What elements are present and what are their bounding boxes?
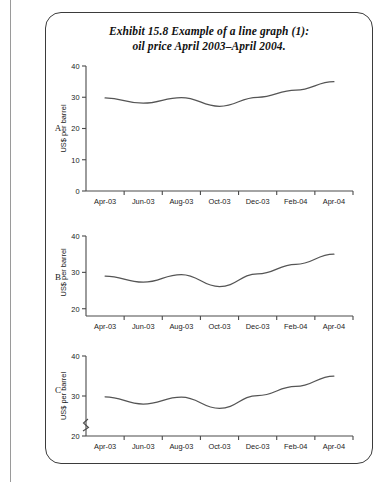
svg-text:Oct-03: Oct-03 [208, 442, 230, 451]
svg-text:Feb-04: Feb-04 [284, 442, 307, 451]
svg-text:Aug-03: Aug-03 [169, 197, 193, 206]
svg-text:Feb-04: Feb-04 [284, 322, 307, 331]
svg-text:20: 20 [71, 305, 79, 314]
svg-text:Apr-03: Apr-03 [94, 442, 116, 451]
svg-text:Apr-03: Apr-03 [94, 322, 116, 331]
svg-text:40: 40 [71, 62, 79, 71]
chart-y-axis-title-a: US$ per barrel [60, 104, 68, 152]
chart-x-ticks-b: Apr-03Jun-03Aug-03Oct-03Dec-03Feb-04Apr-… [94, 316, 353, 331]
chart-series-c [105, 376, 334, 408]
exhibit-title: Exhibit 15.8 Example of a line graph (1)… [46, 24, 372, 54]
svg-text:Oct-03: Oct-03 [208, 197, 230, 206]
exhibit-title-line-2: oil price April 2003–April 2004. [46, 39, 372, 54]
svg-text:Dec-03: Dec-03 [246, 442, 270, 451]
chart-series-a [105, 82, 334, 107]
chart-y-ticks-a: 010203040 [71, 62, 86, 196]
svg-text:Jun-03: Jun-03 [132, 197, 155, 206]
chart-x-ticks-c: Apr-03Jun-03Aug-03Oct-03Dec-03Feb-04Apr-… [94, 436, 353, 451]
exhibit-title-line-1: Exhibit 15.8 Example of a line graph (1)… [46, 24, 372, 39]
svg-text:Aug-03: Aug-03 [169, 322, 193, 331]
chart-series-b [105, 254, 334, 286]
svg-text:Apr-04: Apr-04 [323, 197, 345, 206]
svg-text:20: 20 [71, 432, 79, 441]
chart-x-ticks-a: Apr-03Jun-03Aug-03Oct-03Dec-03Feb-04Apr-… [94, 191, 353, 206]
svg-text:30: 30 [71, 93, 79, 102]
svg-text:Dec-03: Dec-03 [246, 322, 270, 331]
svg-text:US$ per barrel: US$ per barrel [60, 372, 68, 420]
svg-text:Oct-03: Oct-03 [208, 322, 230, 331]
svg-text:Apr-04: Apr-04 [323, 322, 345, 331]
svg-text:US$ per barrel: US$ per barrel [60, 104, 68, 152]
chart-y-ticks-b: 203040 [71, 232, 86, 314]
svg-text:US$ per barrel: US$ per barrel [60, 248, 68, 296]
svg-text:40: 40 [71, 352, 79, 361]
chart-y-axis-title-c: US$ per barrel [60, 372, 68, 420]
svg-text:Dec-03: Dec-03 [246, 197, 270, 206]
chart-panel-c: 203040 Apr-03Jun-03Aug-03Oct-03Dec-03Feb… [60, 348, 360, 463]
svg-text:Apr-03: Apr-03 [94, 197, 116, 206]
chart-svg-b: 203040 Apr-03Jun-03Aug-03Oct-03Dec-03Feb… [60, 228, 360, 343]
chart-y-axis-title-b: US$ per barrel [60, 248, 68, 296]
chart-axis-break-c [83, 419, 89, 431]
chart-axes-a [86, 66, 353, 191]
svg-text:Jun-03: Jun-03 [132, 442, 155, 451]
svg-text:10: 10 [71, 156, 79, 165]
svg-text:0: 0 [75, 187, 79, 196]
page-gutter-rule [10, 0, 11, 482]
svg-text:40: 40 [71, 232, 79, 241]
chart-y-ticks-c: 203040 [71, 352, 86, 441]
svg-text:Aug-03: Aug-03 [169, 442, 193, 451]
svg-text:Feb-04: Feb-04 [284, 197, 307, 206]
svg-text:20: 20 [71, 124, 79, 133]
svg-text:Jun-03: Jun-03 [132, 322, 155, 331]
svg-text:30: 30 [71, 268, 79, 277]
svg-text:Apr-04: Apr-04 [323, 442, 345, 451]
svg-text:30: 30 [71, 392, 79, 401]
chart-axes-b [86, 236, 353, 316]
chart-panel-a: 010203040 Apr-03Jun-03Aug-03Oct-03Dec-03… [60, 58, 360, 213]
chart-svg-c: 203040 Apr-03Jun-03Aug-03Oct-03Dec-03Feb… [60, 348, 360, 463]
chart-svg-a: 010203040 Apr-03Jun-03Aug-03Oct-03Dec-03… [60, 58, 360, 213]
chart-axes-c [86, 356, 353, 436]
chart-panel-b: 203040 Apr-03Jun-03Aug-03Oct-03Dec-03Feb… [60, 228, 360, 343]
